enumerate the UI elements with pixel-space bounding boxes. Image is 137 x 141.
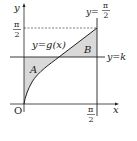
region-b-label: B bbox=[83, 44, 91, 55]
x-tick-pi: π bbox=[88, 105, 93, 114]
y-axis-label: y bbox=[13, 2, 20, 13]
y-tick-pi: π bbox=[14, 20, 19, 29]
diagram: y O x π 2 π 2 y= π 2 y=g(x) y=k A B bbox=[0, 0, 137, 141]
region-a-label: A bbox=[29, 64, 37, 75]
curve-label: y=g(x) bbox=[31, 39, 66, 50]
y-tick-two: 2 bbox=[15, 30, 20, 39]
vertical-line-label-pi: π bbox=[103, 1, 108, 10]
vertical-line-label-two: 2 bbox=[104, 11, 109, 20]
horizontal-line-label: y=k bbox=[106, 51, 126, 62]
x-tick-two: 2 bbox=[89, 115, 94, 124]
vertical-line-label-prefix: y= bbox=[85, 7, 99, 17]
origin-label: O bbox=[14, 105, 22, 116]
x-axis-label: x bbox=[113, 104, 119, 115]
y-axis-arrow-icon bbox=[23, 3, 26, 7]
